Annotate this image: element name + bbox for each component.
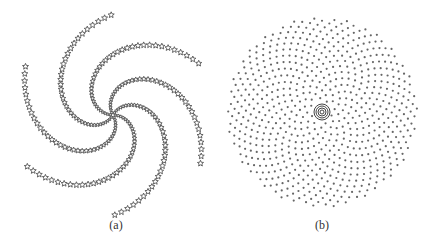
dot-marker — [256, 93, 258, 95]
dot-marker — [296, 95, 298, 97]
dot-marker — [312, 28, 314, 30]
dot-marker — [300, 64, 302, 66]
dot-marker — [403, 73, 405, 75]
dot-marker — [232, 78, 234, 80]
dot-marker — [270, 133, 272, 135]
dot-marker — [367, 139, 369, 141]
dot-marker — [305, 27, 307, 29]
dot-marker — [402, 95, 404, 97]
dot-marker — [370, 34, 372, 36]
dot-marker — [314, 128, 316, 130]
dot-marker — [312, 179, 314, 181]
dot-marker — [295, 49, 297, 51]
dot-marker — [364, 195, 366, 197]
dot-marker — [338, 164, 340, 166]
dot-marker — [251, 157, 253, 159]
dot-marker — [293, 21, 295, 23]
dot-marker — [295, 153, 297, 155]
dot-marker — [316, 86, 318, 88]
dot-marker — [351, 191, 353, 193]
dot-marker — [348, 78, 350, 80]
dot-marker — [277, 163, 279, 165]
dot-marker — [350, 161, 352, 163]
dot-marker — [362, 127, 364, 129]
star-marker — [198, 153, 204, 159]
dot-marker — [287, 31, 289, 33]
dot-marker — [262, 106, 264, 108]
dot-marker — [317, 201, 319, 203]
dot-marker — [416, 107, 418, 109]
dot-marker — [318, 157, 320, 159]
dot-marker — [255, 137, 257, 139]
dot-marker — [230, 90, 232, 92]
dot-marker — [251, 129, 253, 131]
dot-marker — [299, 100, 301, 102]
center-ring — [320, 110, 324, 114]
dot-marker — [388, 102, 390, 104]
dot-marker — [261, 98, 263, 100]
dot-marker — [233, 134, 235, 136]
dot-marker — [256, 63, 258, 65]
dot-marker — [333, 55, 335, 57]
dot-marker — [292, 193, 294, 195]
dot-marker — [352, 39, 354, 41]
dot-marker — [311, 169, 313, 171]
dot-marker — [376, 110, 378, 112]
dot-marker — [288, 152, 290, 154]
dot-marker — [355, 180, 357, 182]
star-marker — [147, 42, 153, 48]
dot-marker — [401, 153, 403, 155]
dot-marker — [274, 150, 276, 152]
dot-marker — [333, 19, 335, 21]
dot-marker — [392, 146, 394, 148]
star-marker — [135, 42, 141, 48]
dot-marker — [387, 81, 389, 83]
dot-marker — [238, 145, 240, 147]
dot-marker — [390, 175, 392, 177]
dot-marker — [340, 196, 342, 198]
dot-marker — [275, 122, 277, 124]
dot-marker — [308, 52, 310, 54]
dot-marker — [271, 91, 273, 93]
dot-marker — [412, 103, 414, 105]
dot-marker — [390, 141, 392, 143]
dot-marker — [268, 139, 270, 141]
dot-marker — [329, 80, 331, 82]
dot-marker — [344, 191, 346, 193]
dot-marker — [324, 122, 326, 124]
dot-marker — [244, 99, 246, 101]
dot-marker — [284, 114, 286, 116]
star-marker — [194, 120, 200, 126]
dot-marker — [315, 164, 317, 166]
star-marker — [196, 126, 202, 132]
dot-marker — [342, 109, 344, 111]
dot-marker — [287, 180, 289, 182]
dot-marker — [313, 187, 315, 189]
dot-marker — [272, 70, 274, 72]
dot-marker — [308, 132, 310, 134]
dot-marker — [323, 185, 325, 187]
dot-marker — [333, 145, 335, 147]
dot-marker — [297, 135, 299, 137]
dot-marker — [248, 104, 250, 106]
dot-marker — [315, 49, 317, 51]
dot-marker — [307, 75, 309, 77]
dot-marker — [252, 73, 254, 75]
dot-marker — [353, 185, 355, 187]
star-marker — [150, 77, 155, 82]
dot-marker — [342, 46, 344, 48]
dot-marker — [336, 127, 338, 129]
dot-marker — [282, 61, 284, 63]
star-marker — [31, 115, 37, 121]
dot-marker — [356, 161, 358, 163]
star-marker — [197, 132, 203, 138]
dot-marker — [337, 113, 339, 115]
dot-marker — [274, 76, 276, 78]
dot-marker — [309, 153, 311, 155]
dot-marker — [258, 111, 260, 113]
dot-marker — [339, 97, 341, 99]
dot-marker — [321, 177, 323, 179]
dot-marker — [307, 140, 309, 142]
dot-marker — [240, 94, 242, 96]
dot-marker — [347, 27, 349, 29]
